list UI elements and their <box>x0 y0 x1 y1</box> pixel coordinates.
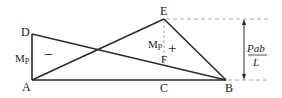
plus-sign: + <box>168 40 176 56</box>
moment-diagram: D A E C B F MP MP − + Pab L <box>0 0 282 98</box>
label-e: E <box>160 4 167 18</box>
label-mp-right: MP <box>148 38 163 52</box>
label-d: D <box>21 25 30 39</box>
label-a: A <box>22 80 31 94</box>
arrow-head-up-icon <box>242 19 246 25</box>
dimension-denominator: L <box>252 56 259 68</box>
label-c: C <box>160 81 168 95</box>
label-mp-left: MP <box>15 52 30 66</box>
arrow-head-down-icon <box>242 74 246 80</box>
dimension-numerator: Pab <box>246 42 265 54</box>
label-b: B <box>225 81 233 95</box>
label-f: F <box>161 53 167 65</box>
line-db <box>32 34 226 80</box>
minus-sign: − <box>44 46 53 63</box>
